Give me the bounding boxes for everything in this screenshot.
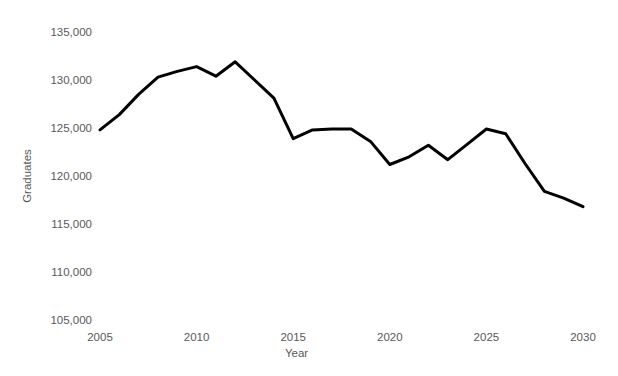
y-tick-label: 105,000 — [50, 314, 92, 326]
y-tick-label: 135,000 — [50, 26, 92, 38]
y-tick-label: 110,000 — [51, 266, 92, 278]
y-tick-label: 120,000 — [50, 170, 92, 182]
y-tick-label: 130,000 — [50, 74, 92, 86]
line-chart: 105,000110,000115,000120,000125,000130,0… — [0, 0, 618, 376]
x-axis-title: Year — [285, 347, 308, 359]
x-tick-label: 2030 — [570, 331, 596, 343]
x-tick-label: 2005 — [87, 331, 113, 343]
x-tick-label: 2010 — [184, 331, 210, 343]
x-tick-label: 2025 — [474, 331, 500, 343]
y-axis-title: Graduates — [21, 149, 33, 203]
y-tick-label: 115,000 — [51, 218, 92, 230]
chart-canvas: 105,000110,000115,000120,000125,000130,0… — [0, 0, 618, 376]
y-tick-label: 125,000 — [50, 122, 92, 134]
x-tick-label: 2015 — [280, 331, 306, 343]
x-tick-label: 2020 — [377, 331, 403, 343]
graduates-line-series — [100, 62, 583, 207]
